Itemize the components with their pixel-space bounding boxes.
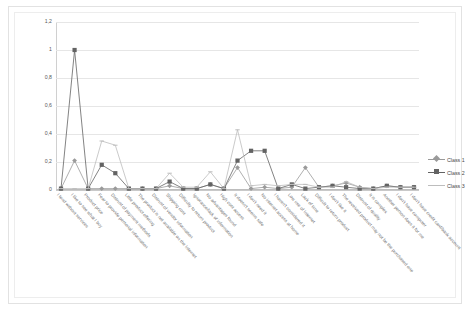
- data-point-marker: [263, 149, 267, 153]
- data-point-marker: [72, 158, 77, 163]
- legend-label: Class 2: [447, 170, 465, 176]
- plot-area: 00,20,40,60,811,2: [56, 22, 419, 190]
- data-point-marker: [249, 149, 253, 153]
- x-tick-label: I don't have credit card/bank account: [409, 193, 461, 251]
- data-point-marker: [344, 185, 348, 189]
- legend-item[interactable]: Class 2: [428, 166, 471, 179]
- data-point-marker: [235, 159, 239, 163]
- x-axis-labels: I tend without servicesI like to see wha…: [56, 193, 419, 303]
- y-tick-label: 0,8: [45, 75, 52, 80]
- data-point-marker: [303, 187, 307, 191]
- y-tick-label: 1,2: [45, 19, 52, 24]
- legend-marker-icon: [428, 181, 445, 190]
- data-point-marker: [208, 182, 212, 186]
- data-point-marker: [262, 185, 267, 190]
- data-point-marker: [72, 48, 76, 52]
- y-tick-label: 1: [49, 47, 52, 52]
- data-point-marker: [276, 187, 280, 191]
- legend-label: Class 3: [447, 183, 465, 189]
- legend-marker-icon: [428, 155, 445, 164]
- data-point-marker: [113, 171, 117, 175]
- data-point-marker: [235, 165, 240, 170]
- grid-line: [56, 190, 419, 191]
- legend-label: Class 1: [447, 157, 465, 163]
- chart-legend: Class 1Class 2Class 3: [428, 153, 471, 192]
- series-lines: [56, 22, 419, 190]
- y-tick-label: 0: [49, 187, 52, 192]
- data-point-marker: [303, 165, 308, 170]
- legend-item[interactable]: Class 1: [428, 153, 471, 166]
- y-tick-label: 0,2: [45, 159, 52, 164]
- data-point-marker: [167, 183, 172, 188]
- y-tick-label: 0,4: [45, 131, 52, 136]
- chart-container: 00,20,40,60,811,2 I tend without service…: [14, 12, 456, 298]
- chart-page: 00,20,40,60,811,2 I tend without service…: [0, 0, 471, 316]
- y-tick-label: 0,6: [45, 103, 52, 108]
- data-point-marker: [100, 163, 104, 167]
- legend-item[interactable]: Class 3: [428, 179, 471, 192]
- data-point-marker: [168, 180, 172, 184]
- legend-marker-icon: [428, 168, 445, 177]
